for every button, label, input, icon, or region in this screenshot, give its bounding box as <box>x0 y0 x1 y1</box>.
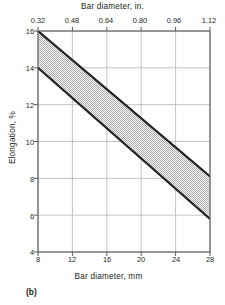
bottom-tick-label-2: 16 <box>93 255 121 264</box>
bottom-axis-title: Bar diameter, mm <box>0 272 217 281</box>
y-axis-ticks <box>34 31 38 252</box>
bottom-tick-label-5: 28 <box>196 255 224 264</box>
bottom-tick-label-3: 20 <box>127 255 155 264</box>
bottom-tick-label-1: 12 <box>58 255 86 264</box>
bottom-tick-label-4: 24 <box>162 255 190 264</box>
top-axis-ticks <box>38 27 210 31</box>
bottom-tick-label-0: 8 <box>24 255 52 264</box>
figure-caption: (b) <box>26 287 37 297</box>
figure-panel-b: Bar diameter, in. 0.32 0.48 0.64 0.80 0.… <box>0 0 225 305</box>
